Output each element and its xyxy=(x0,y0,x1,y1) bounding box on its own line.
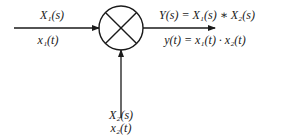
input1-time-label: x₁(t) xyxy=(38,34,59,46)
input2-freq-label: X₂(s) xyxy=(109,109,133,121)
input1-freq-label: X₁(s) xyxy=(40,9,64,21)
output-time-label: y(t) = x₁(t) · x₂(t) xyxy=(164,34,245,46)
multiplier-node-icon xyxy=(99,6,143,50)
output-freq-label: Y(s) = X₁(s) ∗ X₂(s) xyxy=(159,9,255,21)
input2-time-label: x₂(t) xyxy=(111,122,132,134)
